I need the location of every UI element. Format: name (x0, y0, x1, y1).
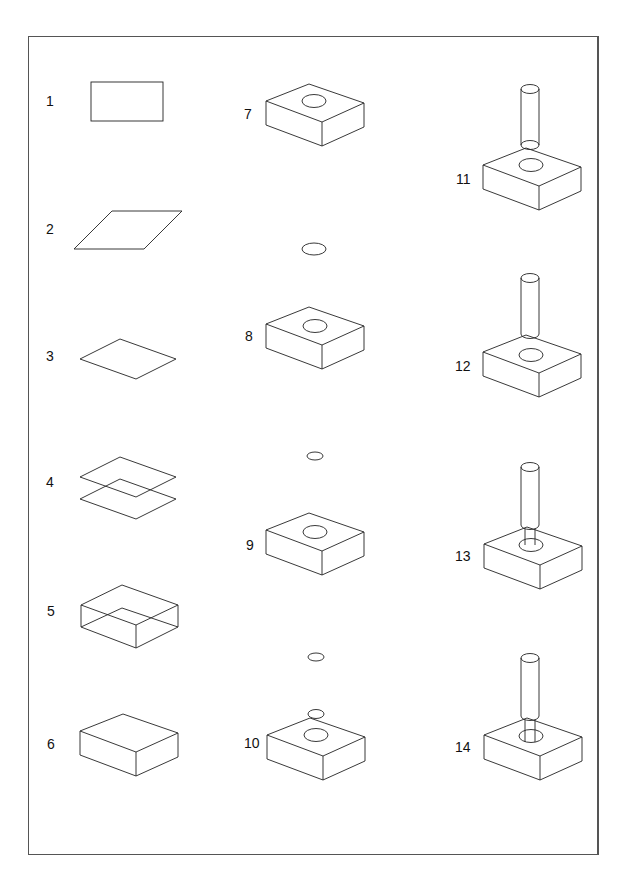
step-label-4: 4 (46, 475, 54, 489)
step-11-cylinder-above-box (483, 85, 581, 211)
step-4-stacked-rhombuses (80, 457, 176, 519)
step-2-parallelogram (74, 211, 182, 249)
step-label-7: 7 (244, 107, 252, 121)
step-1-rectangle (91, 82, 163, 121)
step-label-11: 11 (456, 172, 471, 186)
step-10-box-and-stacked-ellipses (267, 653, 365, 780)
step-3-rhombus (80, 339, 176, 379)
step-13-cylinder-entering-hole (484, 463, 582, 590)
step-14-cylinder-inserted (484, 654, 582, 781)
step-label-8: 8 (245, 329, 253, 343)
step-9-box-and-small-ellipse (266, 452, 364, 575)
step-label-10: 10 (244, 736, 260, 750)
step-7-box-with-hole (266, 84, 364, 146)
step-label-1: 1 (46, 94, 54, 108)
step-label-2: 2 (46, 222, 54, 236)
step-8-box-and-ellipse (266, 243, 364, 369)
step-label-5: 5 (47, 604, 55, 618)
step-label-6: 6 (47, 737, 55, 751)
step-label-14: 14 (455, 740, 471, 754)
step-12-cylinder-on-box (483, 274, 581, 398)
step-label-3: 3 (46, 349, 54, 363)
construction-diagram (0, 0, 624, 871)
step-6-solid-box (80, 714, 178, 776)
step-label-9: 9 (246, 538, 254, 552)
step-label-12: 12 (455, 359, 471, 373)
step-label-13: 13 (455, 549, 471, 563)
step-5-wireframe-box (81, 585, 178, 648)
